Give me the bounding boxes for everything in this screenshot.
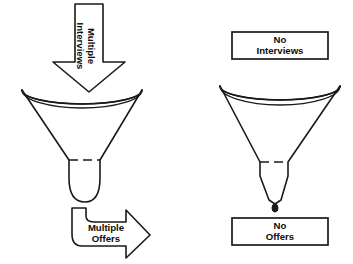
no-interviews-label-line1: No <box>274 34 287 45</box>
output-arrow-label-line2: Offers <box>92 233 120 244</box>
input-arrow-label-line2: Interviews <box>75 23 86 70</box>
no-interviews-box: No Interviews <box>232 32 328 59</box>
no-offers-label-line1: No <box>274 220 287 231</box>
funnel-icon-right <box>220 86 340 212</box>
no-offers-label-line2: Offers <box>266 231 294 242</box>
funnel-diagram: Multiple Interviews Multiple Offers No I… <box>0 0 353 264</box>
output-arrow-label-line1: Multiple <box>88 222 124 233</box>
no-interviews-label-line2: Interviews <box>257 45 304 56</box>
droplet-icon <box>272 204 278 212</box>
funnel-icon-left <box>22 90 142 202</box>
no-offers-box: No Offers <box>232 218 328 245</box>
input-arrow-label-line1: Multiple <box>86 28 97 64</box>
